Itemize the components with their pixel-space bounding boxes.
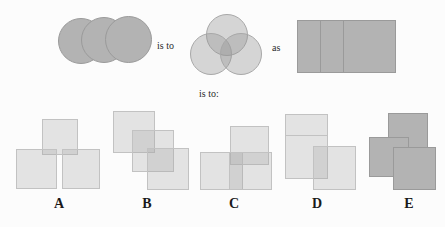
venn-circle-bottom-right bbox=[220, 33, 262, 75]
connective-is-to-1: is to bbox=[157, 40, 174, 51]
option-b-square-3 bbox=[147, 148, 189, 190]
option-label-d[interactable]: D bbox=[307, 196, 327, 212]
term-a-three-opaque-circles bbox=[58, 16, 153, 64]
option-d-square-offset bbox=[313, 146, 356, 190]
option-a[interactable] bbox=[16, 119, 100, 190]
option-label-b[interactable]: B bbox=[137, 196, 157, 212]
option-label-e[interactable]: E bbox=[399, 196, 419, 212]
square-opaque-3 bbox=[343, 20, 396, 73]
circle-opaque-3 bbox=[105, 16, 152, 63]
puzzle-canvas: is to as is to: bbox=[0, 0, 445, 227]
option-a-square-bottom-left bbox=[16, 149, 57, 189]
option-c[interactable] bbox=[200, 126, 272, 190]
option-d[interactable] bbox=[285, 114, 357, 190]
connective-as: as bbox=[272, 42, 280, 53]
term-c-three-opaque-squares bbox=[297, 20, 397, 74]
connective-is-to-2: is to: bbox=[199, 88, 219, 99]
option-e[interactable] bbox=[369, 113, 437, 190]
option-b[interactable] bbox=[113, 111, 189, 190]
term-b-translucent-venn bbox=[190, 14, 262, 76]
option-label-a[interactable]: A bbox=[49, 196, 69, 212]
option-label-c[interactable]: C bbox=[224, 196, 244, 212]
option-d-square-top bbox=[285, 114, 328, 136]
option-c-square-bottom-right bbox=[229, 152, 272, 190]
option-e-square-3 bbox=[393, 147, 436, 190]
option-a-square-bottom-right bbox=[62, 149, 100, 189]
